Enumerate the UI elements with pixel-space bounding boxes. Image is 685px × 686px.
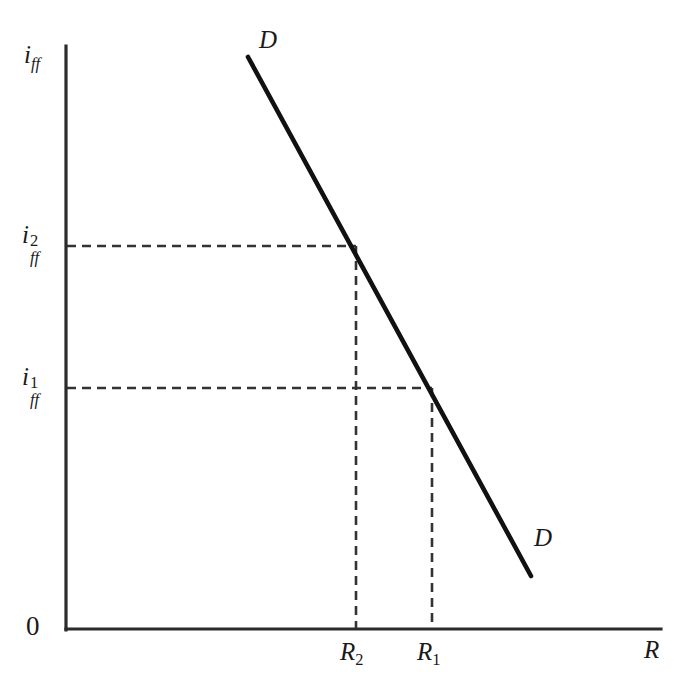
y-tick-label-iff1: i1ff (22, 364, 29, 389)
demand-curve-figure: iff i2ff i1ff 0 R2 R1 R D D (0, 0, 685, 686)
y-tick-2-subscript: ff (30, 250, 39, 267)
y-tick-label-iff2: i2ff (22, 222, 29, 247)
demand-curve-label-top: D (259, 27, 277, 52)
y-axis-title: iff (24, 42, 40, 73)
demand-curve-label-bottom: D (534, 525, 552, 550)
y-tick-2-superscript: 2 (30, 233, 38, 250)
y-tick-1-base: i (22, 363, 29, 390)
x-tick-2-base: R (340, 638, 355, 665)
y-axis-title-base: i (24, 41, 31, 68)
x-tick-2-subscript: 2 (355, 650, 363, 669)
demand-curve-line (248, 57, 531, 576)
x-tick-label-r2: R2 (340, 639, 364, 664)
plot-area (0, 0, 685, 686)
x-axis-title: R (644, 637, 659, 662)
x-tick-label-r1: R1 (417, 639, 441, 664)
y-axis-title-sub: ff (31, 54, 40, 73)
y-tick-2-base: i (22, 221, 29, 248)
origin-label: 0 (26, 613, 40, 640)
x-tick-1-subscript: 1 (432, 650, 440, 669)
y-tick-1-subscript: ff (30, 392, 39, 409)
x-tick-1-base: R (417, 638, 432, 665)
y-tick-1-superscript: 1 (30, 375, 38, 392)
